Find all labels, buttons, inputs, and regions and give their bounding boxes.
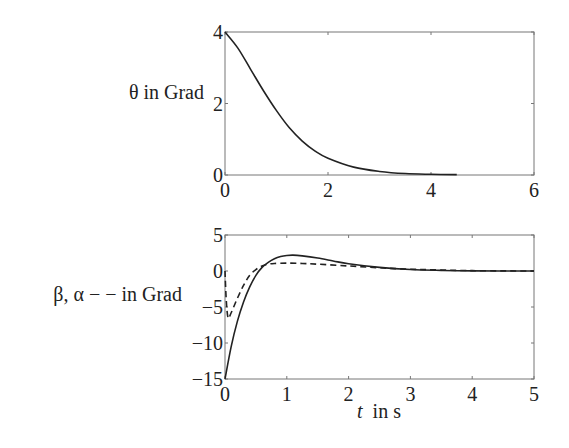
x-tick-label: 4: [426, 179, 436, 201]
beta-alpha-plot: 01234550−5−10−15 β, α − − in Grad t in s: [53, 224, 539, 422]
y-tick-label: 4: [213, 21, 223, 43]
theta-plot: 0246024 θ in Grad: [129, 21, 539, 201]
x-tick-label: 6: [529, 179, 539, 201]
y-tick-label: −5: [202, 296, 223, 318]
y-axis-label: β, α − − in Grad: [53, 283, 182, 306]
x-tick-label: 5: [529, 383, 539, 405]
plot-lines: [225, 32, 457, 175]
axis-ticks: 01234550−5−10−15: [192, 224, 539, 405]
x-tick-label: 2: [344, 383, 354, 405]
y-tick-label: −10: [192, 332, 223, 354]
y-tick-label: −15: [192, 368, 223, 390]
y-tick-label: 5: [213, 224, 223, 246]
series-β-line: [225, 255, 534, 379]
x-tick-label: 1: [282, 383, 292, 405]
x-tick-label: 3: [405, 383, 415, 405]
chart: 0246024 θ in Grad 01234550−5−10−15 β, α …: [0, 0, 569, 448]
y-axis-label: θ in Grad: [129, 81, 204, 103]
series-θ-line: [225, 32, 457, 175]
x-tick-label: 4: [467, 383, 477, 405]
y-tick-label: 0: [213, 164, 223, 186]
y-tick-label: 0: [213, 260, 223, 282]
x-axis-label: t in s: [357, 400, 401, 422]
axis-ticks: 0246024: [213, 21, 539, 201]
y-tick-label: 2: [213, 93, 223, 115]
plot-frame: [225, 235, 534, 379]
x-tick-label: 2: [323, 179, 333, 201]
plot-lines: [225, 255, 534, 379]
